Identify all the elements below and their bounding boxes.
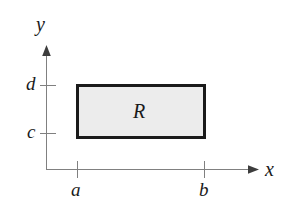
y-tick-label-d: d (26, 74, 36, 93)
x-axis-arrowhead (248, 165, 259, 173)
x-tick-label-a: a (71, 180, 81, 199)
x-axis-label: x (265, 159, 274, 179)
y-tick-label-c: c (27, 122, 35, 141)
region-label: R (133, 101, 145, 121)
x-tick-label-b: b (199, 180, 209, 199)
y-axis-label: y (36, 14, 45, 34)
y-axis-arrowhead (42, 45, 51, 56)
figure-canvas: y x d c a b R (0, 0, 293, 213)
